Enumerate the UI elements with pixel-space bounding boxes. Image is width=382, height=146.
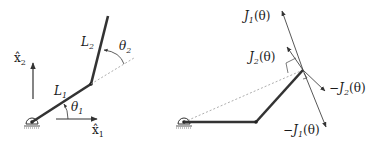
link1-label: L1 <box>53 84 67 100</box>
j2-label: J2(θ) <box>246 50 276 66</box>
right-diagram: J1(θ) J2(θ) −J2(θ) −J1(θ) <box>176 9 366 139</box>
link-2 <box>256 70 303 122</box>
theta1-arc <box>64 104 68 119</box>
left-diagram: x̂2 x̂1 L1 L2 θ1 θ2 <box>14 16 134 139</box>
j1-vector <box>282 11 303 70</box>
x1-axis-label: x̂1 <box>92 123 104 139</box>
robot-arm-diagram: x̂2 x̂1 L1 L2 θ1 θ2 J1(θ) <box>0 0 382 146</box>
neg-j2-vector <box>303 70 325 91</box>
theta2-label: θ2 <box>119 39 131 55</box>
base-to-tip-dashed <box>184 70 303 122</box>
right-angle-marker <box>286 58 296 73</box>
neg-j1-label: −J1(θ) <box>283 123 320 139</box>
neg-j2-label: −J2(θ) <box>329 81 366 97</box>
neg-j1-vector <box>303 70 326 127</box>
theta1-label: θ1 <box>71 100 83 116</box>
link2-label: L2 <box>80 35 94 51</box>
j1-label: J1(θ) <box>241 9 271 25</box>
x2-axis-label: x̂2 <box>14 51 26 67</box>
